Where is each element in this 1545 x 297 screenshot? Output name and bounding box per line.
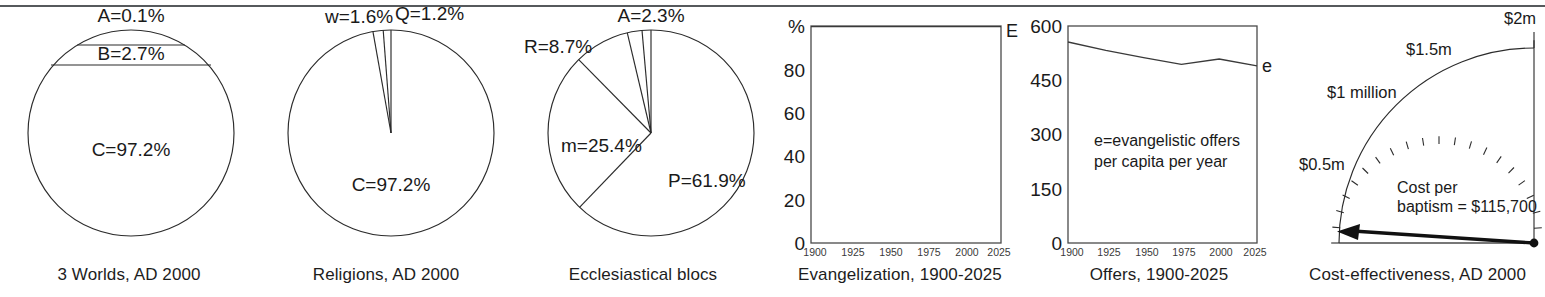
ytick-label: 150 <box>1030 179 1062 200</box>
xtick-label: 2025 <box>987 246 1011 258</box>
ytick-label: 40 <box>784 146 805 167</box>
panel-cost-effectiveness: $0.5m $1 million $1.5m $2m Cost per bapt… <box>1290 0 1545 297</box>
label-p: P=61.9% <box>668 170 746 191</box>
ytick-label: 300 <box>1030 124 1062 145</box>
xtick-label: 1950 <box>1135 246 1159 258</box>
xtick-label: 1975 <box>917 246 941 258</box>
xtick-label: 1900 <box>803 246 827 258</box>
panel-caption: Cost-effectiveness, AD 2000 <box>1290 265 1545 285</box>
annotation-line-1: e=evangelistic offers <box>1094 132 1240 149</box>
panel-offers: 600 450 300 150 0 1900 1925 1950 1975 20… <box>1028 0 1290 297</box>
panel-ecclesiastical-blocs: A=2.3% R=8.7% m=25.4% P=61.9% Ecclesiast… <box>514 0 772 297</box>
religions-svg: w=1.6% Q=1.2% C=97.2% <box>258 0 514 258</box>
ytick-label: % <box>788 16 805 37</box>
three-worlds-chart: A=0.1% B=2.7% C=97.2% <box>0 0 258 258</box>
series-label-e: E <box>1006 21 1018 41</box>
gauge-scale-label-1: $1 million <box>1327 83 1397 101</box>
series-label-e: e <box>1262 56 1272 76</box>
panel-religions: w=1.6% Q=1.2% C=97.2% Religions, AD 2000 <box>258 0 514 297</box>
gauge-scale-label-2: $1.5m <box>1406 40 1452 58</box>
gauge-scale-label-0: $0.5m <box>1299 155 1345 173</box>
label-q: Q=1.2% <box>395 3 464 24</box>
ytick-label: 450 <box>1030 70 1062 91</box>
gauge-scale-label-3: $2m <box>1504 9 1536 27</box>
ytick-label: 80 <box>784 60 805 81</box>
label-w: w=1.6% <box>324 6 393 27</box>
gauge-svg: $0.5m $1 million $1.5m $2m Cost per bapt… <box>1290 0 1545 262</box>
xtick-label: 1925 <box>1097 246 1121 258</box>
pie-radius-w-c <box>373 31 391 133</box>
xtick-label: 1975 <box>1172 246 1196 258</box>
panel-caption: Religions, AD 2000 <box>258 265 514 285</box>
religions-chart: w=1.6% Q=1.2% C=97.2% <box>258 0 514 258</box>
ytick-label: 20 <box>784 190 805 211</box>
xtick-label: 1925 <box>841 246 865 258</box>
xtick-label: 2000 <box>955 246 979 258</box>
panel-evangelization: % 80 60 40 20 0 1900 1925 1950 1975 2000… <box>772 0 1028 297</box>
ecclesiastical-svg: A=2.3% R=8.7% m=25.4% P=61.9% <box>514 0 772 258</box>
pie-radius-q-w <box>383 30 391 133</box>
ecclesiastical-blocs-chart: A=2.3% R=8.7% m=25.4% P=61.9% <box>514 0 772 258</box>
gauge-annotation-line-2: baptism = $115,700 <box>1397 198 1537 215</box>
label-a: A=2.3% <box>617 5 684 26</box>
evangelization-svg: % 80 60 40 20 0 1900 1925 1950 1975 2000… <box>772 0 1028 262</box>
three-worlds-svg: A=0.1% B=2.7% C=97.2% <box>0 0 258 258</box>
label-m: m=25.4% <box>561 135 642 156</box>
ytick-label: 60 <box>784 103 805 124</box>
panel-caption: 3 Worlds, AD 2000 <box>0 265 258 285</box>
xtick-label: 1950 <box>879 246 903 258</box>
offers-svg: 600 450 300 150 0 1900 1925 1950 1975 20… <box>1028 0 1290 262</box>
evangelization-chart: % 80 60 40 20 0 1900 1925 1950 1975 2000… <box>772 0 1028 262</box>
panel-three-worlds: A=0.1% B=2.7% C=97.2% 3 Worlds, AD 2000 <box>0 0 258 297</box>
label-b: B=2.7% <box>97 43 164 64</box>
plot-frame <box>811 26 1001 243</box>
label-c: C=97.2% <box>92 139 171 160</box>
pie-radius-hairline-1 <box>642 30 651 133</box>
xtick-label: 2000 <box>1209 246 1233 258</box>
xtick-label: 2025 <box>1243 246 1267 258</box>
pie-radius-a <box>627 33 651 133</box>
figure-sheet: A=0.1% B=2.7% C=97.2% 3 Worlds, AD 2000 … <box>0 0 1545 297</box>
label-a: A=0.1% <box>97 5 164 26</box>
label-c: C=97.2% <box>352 174 431 195</box>
xtick-label: 1900 <box>1060 246 1084 258</box>
gauge-pivot <box>1530 239 1539 248</box>
series-line-e <box>1068 42 1257 66</box>
offers-chart: 600 450 300 150 0 1900 1925 1950 1975 20… <box>1028 0 1290 262</box>
label-r: R=8.7% <box>524 36 592 57</box>
pie-radius-r <box>579 60 651 133</box>
cost-effectiveness-gauge: $0.5m $1 million $1.5m $2m Cost per bapt… <box>1290 0 1545 262</box>
ytick-label: 600 <box>1030 16 1062 37</box>
annotation-line-2: per capita per year <box>1094 153 1228 170</box>
panel-caption: Ecclesiastical blocs <box>514 265 772 285</box>
panel-caption: Evangelization, 1900-2025 <box>772 265 1028 285</box>
gauge-needle <box>1353 231 1534 243</box>
gauge-needle-arrowhead <box>1337 224 1360 240</box>
panel-caption: Offers, 1900-2025 <box>1028 265 1290 285</box>
gauge-annotation-line-1: Cost per <box>1397 179 1458 196</box>
